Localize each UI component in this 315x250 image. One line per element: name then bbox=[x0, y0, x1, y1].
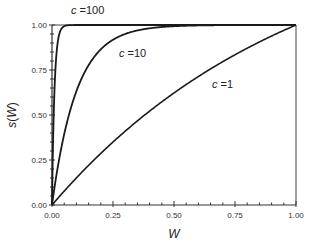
x-tick-label: 0.75 bbox=[227, 211, 243, 220]
plot-frame bbox=[52, 25, 296, 205]
chart: 0.00 0.25 0.50 0.75 1.00 0.00 0.25 0.50 … bbox=[0, 0, 315, 250]
x-tick-label: 0.25 bbox=[105, 211, 121, 220]
axis-ticks bbox=[49, 25, 296, 207]
curve-c100 bbox=[52, 25, 296, 205]
y-tick-label: 1.00 bbox=[31, 21, 47, 30]
y-tick-label: 0.50 bbox=[31, 111, 47, 120]
y-tick-label: 0.75 bbox=[31, 66, 47, 75]
x-tick-label: 0.50 bbox=[166, 211, 182, 220]
x-axis-title: W bbox=[168, 227, 181, 241]
curve-c1 bbox=[52, 25, 296, 205]
curve-label-c1: c =1 bbox=[212, 78, 233, 90]
curve-c10 bbox=[52, 25, 296, 205]
y-tick-label: 0.25 bbox=[31, 156, 47, 165]
x-tick-label: 1.00 bbox=[288, 211, 304, 220]
y-axis-title: s(W) bbox=[5, 102, 19, 127]
curve-label-c100: c =100 bbox=[71, 4, 104, 16]
x-tick-label: 0.00 bbox=[44, 211, 60, 220]
curve-label-c10: c =10 bbox=[119, 47, 146, 59]
curves bbox=[52, 25, 296, 205]
y-tick-label: 0.00 bbox=[31, 201, 47, 210]
